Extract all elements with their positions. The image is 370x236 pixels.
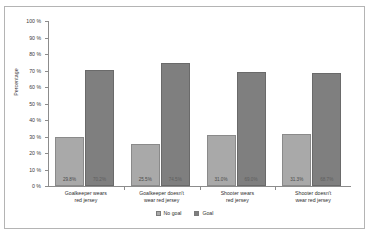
- category-label-line: red jersey: [200, 197, 276, 204]
- legend-label: Goal: [202, 210, 213, 216]
- bar-value-label: 70.2%: [86, 177, 113, 182]
- bar-value-label: 31.0%: [208, 177, 235, 182]
- bar-goal[interactable]: 70.2%: [85, 70, 114, 186]
- bar-group: 31.3%68.7%: [275, 21, 351, 186]
- legend-item[interactable]: Goal: [194, 210, 213, 216]
- y-axis-tick-mark: [45, 186, 48, 187]
- legend-item[interactable]: No goal: [156, 210, 182, 216]
- y-axis-tick-label: 30 %: [7, 134, 41, 140]
- legend-label: No goal: [164, 210, 182, 216]
- bar-value-label: 25.5%: [132, 177, 159, 182]
- y-axis-tick-label: 80 %: [7, 51, 41, 57]
- y-axis-tick-label: 90 %: [7, 35, 41, 41]
- bar-no-goal[interactable]: 31.3%: [282, 134, 311, 186]
- category-label-line: red jersey: [48, 197, 124, 204]
- bar-no-goal[interactable]: 29.8%: [55, 137, 84, 186]
- bar-goal[interactable]: 68.7%: [312, 73, 341, 186]
- bar-group: 31.0%69.0%: [200, 21, 276, 186]
- y-axis-tick-label: 70 %: [7, 68, 41, 74]
- bar-group: 25.5%74.5%: [124, 21, 200, 186]
- category-label-line: wear red jersey: [275, 197, 351, 204]
- category-label-line: Goalkeeper wears: [48, 190, 124, 197]
- y-axis-tick-label: 50 %: [7, 101, 41, 107]
- bar-value-label: 69.0%: [238, 177, 265, 182]
- y-axis-title: Percentage: [13, 47, 19, 117]
- y-axis-tick-label: 20 %: [7, 150, 41, 156]
- bar-value-label: 68.7%: [313, 177, 340, 182]
- y-axis-tick-label: 40 %: [7, 117, 41, 123]
- category-label-line: Goalkeeper doesn't: [124, 190, 200, 197]
- x-axis-category-label: Goalkeeper doesn'twear red jersey: [124, 190, 200, 203]
- legend-swatch-icon: [194, 211, 199, 216]
- bar-no-goal[interactable]: 31.0%: [207, 135, 236, 186]
- plot-area: 0 %10 %20 %30 %40 %50 %60 %70 %80 %90 %1…: [48, 21, 351, 187]
- chart-legend: No goalGoal: [5, 210, 364, 216]
- y-axis-tick-label: 0 %: [7, 183, 41, 189]
- chart-frame: Percentage 0 %10 %20 %30 %40 %50 %60 %70…: [4, 6, 365, 229]
- bar-goal[interactable]: 74.5%: [161, 63, 190, 186]
- legend-swatch-icon: [156, 211, 161, 216]
- y-axis-tick-label: 10 %: [7, 167, 41, 173]
- category-label-line: Shooter wears: [200, 190, 276, 197]
- bar-value-label: 29.8%: [56, 177, 83, 182]
- x-axis-category-label: Goalkeeper wearsred jersey: [48, 190, 124, 203]
- bar-group: 29.8%70.2%: [48, 21, 124, 186]
- bar-value-label: 31.3%: [283, 177, 310, 182]
- bar-no-goal[interactable]: 25.5%: [131, 144, 160, 186]
- bar-value-label: 74.5%: [162, 177, 189, 182]
- y-axis-tick-label: 60 %: [7, 84, 41, 90]
- y-axis-tick-label: 100 %: [7, 18, 41, 24]
- x-axis-category-label: Shooter wearsred jersey: [200, 190, 276, 203]
- category-label-line: wear red jersey: [124, 197, 200, 204]
- category-label-line: Shooter doesn't: [275, 190, 351, 197]
- x-axis-category-label: Shooter doesn'twear red jersey: [275, 190, 351, 203]
- bar-goal[interactable]: 69.0%: [237, 72, 266, 186]
